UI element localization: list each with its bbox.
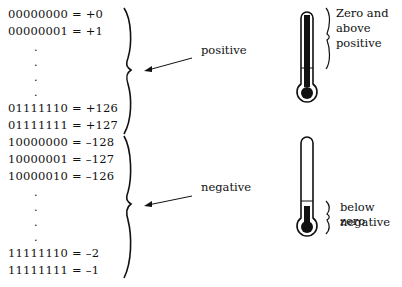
negative-brace-icon <box>124 136 131 278</box>
negative-arrow-icon <box>148 196 192 205</box>
bottom-thermo-label-2: negative <box>340 215 390 229</box>
bottom-thermo-brace-icon <box>326 201 329 234</box>
top-thermo-label-3: positive <box>336 36 381 50</box>
positive-label: positive <box>201 43 246 57</box>
thermometer-full-icon <box>297 12 317 102</box>
negative-label: negative <box>201 180 251 194</box>
thermometer-low-icon <box>297 137 317 236</box>
positive-brace-icon <box>124 8 131 134</box>
positive-arrow-icon <box>148 58 192 70</box>
top-thermo-label-2: above <box>336 21 370 35</box>
top-thermo-brace-icon <box>326 8 330 69</box>
top-thermo-label-1: Zero and <box>336 6 389 20</box>
